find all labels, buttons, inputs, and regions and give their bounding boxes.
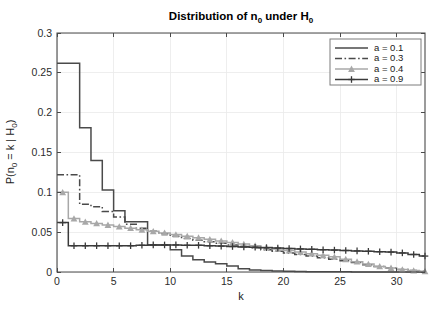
y-tick-label: 0.2 bbox=[37, 106, 52, 118]
y-axis-label: P(n0 = k | H0) bbox=[4, 120, 19, 185]
chart-title: Distribution of n0 under H0 bbox=[169, 10, 314, 25]
y-tick-label: 0.25 bbox=[32, 66, 53, 78]
x-tick-label: 30 bbox=[391, 275, 403, 287]
y-tick-label: 0.1 bbox=[37, 186, 52, 198]
legend[interactable]: a = 0.1a = 0.3a = 0.4a = 0.9 bbox=[330, 39, 421, 85]
legend-label: a = 0.1 bbox=[374, 42, 403, 53]
legend-label: a = 0.4 bbox=[374, 63, 403, 74]
series-lines bbox=[57, 63, 428, 274]
series-1 bbox=[57, 63, 425, 272]
legend-label: a = 0.3 bbox=[374, 52, 403, 63]
x-tick-label: 5 bbox=[111, 275, 117, 287]
distribution-chart: 05101520253000.050.10.150.20.250.3 Distr… bbox=[0, 0, 443, 314]
x-tick-label: 25 bbox=[334, 275, 346, 287]
x-tick-label: 20 bbox=[278, 275, 290, 287]
figure-container: 05101520253000.050.10.150.20.250.3 Distr… bbox=[0, 0, 443, 314]
legend-label: a = 0.9 bbox=[374, 73, 403, 84]
series-3 bbox=[57, 189, 428, 274]
y-tick-label: 0 bbox=[46, 266, 52, 278]
y-tick-label: 0.3 bbox=[37, 27, 52, 39]
y-tick-label: 0.05 bbox=[32, 226, 53, 238]
x-axis-label: k bbox=[238, 290, 244, 302]
y-tick-label: 0.15 bbox=[32, 146, 53, 158]
x-tick-label: 0 bbox=[54, 275, 60, 287]
x-tick-label: 10 bbox=[164, 275, 176, 287]
x-tick-label: 15 bbox=[221, 275, 233, 287]
